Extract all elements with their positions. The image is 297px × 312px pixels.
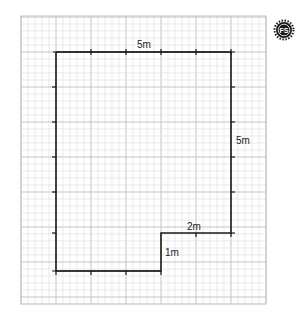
right-dimension-label: 5m [236, 135, 250, 146]
floor-plan-diagram: 5m 5m 2m 1m FS [0, 0, 297, 312]
top-dimension-label: 5m [137, 39, 151, 50]
logo-text: FS [280, 27, 289, 34]
room-outline [56, 52, 231, 271]
step-top-dimension-label: 2m [187, 221, 201, 232]
fs-logo-icon: FS [275, 21, 294, 40]
graph-paper-grid [21, 16, 266, 304]
step-side-dimension-label: 1m [165, 247, 179, 258]
